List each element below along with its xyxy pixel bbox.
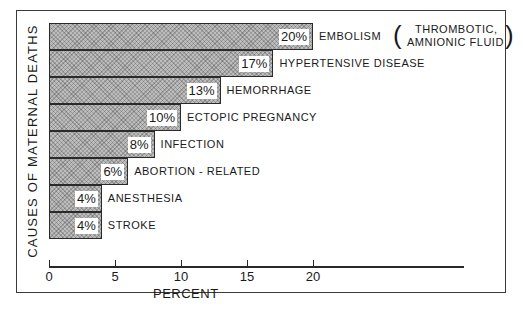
x-tick-label: 20 (306, 269, 320, 284)
bar-value-label: 4% (75, 218, 98, 234)
category-label: ECTOPIC PREGNANCY (187, 110, 317, 124)
bar: 4% (49, 212, 102, 239)
x-tick-label: 5 (111, 269, 118, 284)
open-paren: ( (393, 22, 402, 48)
y-axis-label: CAUSES OF MATERNAL DEATHS (22, 22, 42, 260)
bar-value-label: 17% (239, 56, 269, 72)
x-tick-label: 10 (174, 269, 188, 284)
bar: 20% (49, 23, 313, 50)
category-label: EMBOLISM (319, 29, 381, 43)
bar-value-label: 8% (128, 137, 151, 153)
x-tick (49, 260, 50, 266)
bar: 6% (49, 158, 128, 185)
y-axis-label-text: CAUSES OF MATERNAL DEATHS (25, 24, 40, 257)
category-sublabel: AMNIONIC FLUID (407, 36, 504, 48)
bar-value-label: 6% (101, 164, 124, 180)
x-tick-label: 0 (45, 269, 52, 284)
x-axis-line (49, 266, 464, 268)
category-label: ABORTION - RELATED (134, 164, 260, 178)
category-sublabel: THROMBOTIC, (415, 23, 498, 35)
category-label: INFECTION (161, 137, 225, 151)
x-tick (247, 260, 248, 266)
category-label: STROKE (108, 218, 156, 232)
bar-value-label: 20% (279, 29, 309, 45)
close-paren: ) (505, 22, 514, 48)
bar: 13% (49, 77, 221, 104)
x-axis-label: PERCENT (153, 286, 219, 301)
category-label: ANESTHESIA (108, 191, 183, 205)
bar-value-label: 13% (187, 83, 217, 99)
category-label: HEMORRHAGE (227, 83, 312, 97)
bar: 10% (49, 104, 181, 131)
x-tick (181, 260, 182, 266)
x-tick (115, 260, 116, 266)
bar-value-label: 10% (147, 110, 177, 126)
x-tick-label: 15 (240, 269, 254, 284)
bar: 4% (49, 185, 102, 212)
x-tick (313, 260, 314, 266)
bar: 8% (49, 131, 155, 158)
bar: 17% (49, 50, 273, 77)
bar-value-label: 4% (75, 191, 98, 207)
category-label: HYPERTENSIVE DISEASE (279, 56, 425, 70)
